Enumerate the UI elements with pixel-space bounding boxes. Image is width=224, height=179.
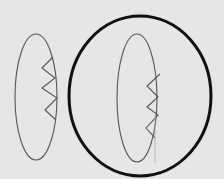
inner-ellipse-shape	[117, 34, 157, 162]
diagram-canvas	[0, 0, 224, 179]
left-ellipse-shape	[15, 34, 57, 160]
inner-zigzag-line	[146, 74, 160, 138]
diagram-svg	[0, 0, 224, 179]
enclosing-circle-shape	[69, 16, 211, 176]
